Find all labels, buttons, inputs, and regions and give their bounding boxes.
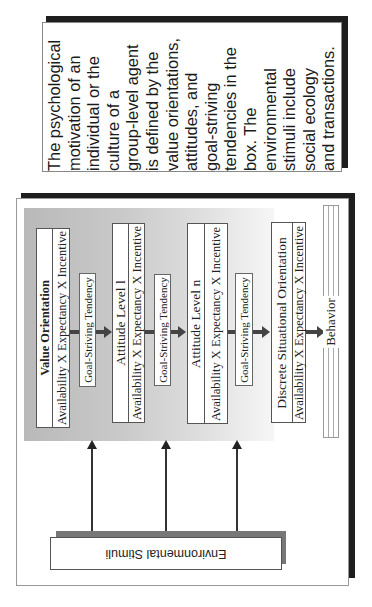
level-attitude-n: Attitude Level n Availability X Expectan…: [187, 223, 228, 424]
arrow-up: [91, 447, 93, 536]
behavior-label: Behavior: [323, 296, 339, 348]
note-line: group-level agent: [123, 23, 143, 171]
goal-striving-label: Goal-Striving Tendency: [157, 277, 169, 383]
note-line: box. The: [241, 23, 261, 171]
note-line: goal-striving: [202, 23, 222, 171]
goal-striving-label: Goal-Striving Tendency: [238, 277, 250, 383]
note-text: The psychological motivation of an indiv…: [45, 23, 339, 171]
note-line: is defined by the: [143, 23, 163, 171]
level-title: Value Orientation: [38, 280, 53, 376]
note-line: individual or the: [84, 23, 104, 171]
goal-striving-label: Goal-Striving Tendency: [82, 277, 94, 383]
level-formula: Availability X Expectancy X Incentive: [130, 226, 145, 420]
environmental-stimuli-label: Environmental Stimuli: [106, 547, 227, 561]
note-box: The psychological motivation of an indiv…: [42, 22, 342, 172]
note-line: The psychological: [45, 23, 65, 171]
note-line: stimuli include: [280, 23, 300, 171]
arrow-up: [165, 447, 167, 536]
note-line: and transactions.: [319, 23, 339, 171]
level-formula: Availability X Expectancy X Incentive: [292, 225, 307, 419]
level-title: Attitude Level n: [188, 279, 204, 367]
note-line: culture of a: [104, 23, 124, 171]
environmental-stimuli-box: Environmental Stimuli: [50, 537, 282, 570]
note-line: environmental: [261, 23, 281, 171]
note-line: social ecology: [300, 23, 320, 171]
level-discrete-situational: Discrete Situational Orientation Availab…: [271, 222, 306, 423]
note-line: attitudes, and: [182, 23, 202, 171]
level-attitude-1: Attitude Level l Availability X Expectan…: [112, 223, 145, 423]
level-title: Discrete Situational Orientation: [274, 237, 290, 409]
note-line: value orientations,: [163, 23, 183, 171]
level-formula: Availability X Expectancy X Incentive: [209, 226, 224, 420]
note-line: motivation of an: [65, 23, 85, 171]
level-formula: Availability X Expectancy X Incentive: [55, 231, 70, 425]
arrow-up: [236, 447, 238, 536]
goal-striving-box: Goal-Striving Tendency: [79, 273, 96, 387]
level-title: Attitude Level l: [113, 280, 129, 365]
arrow-right: [306, 330, 319, 334]
goal-striving-box: Goal-Striving Tendency: [154, 274, 171, 386]
behavior-box: Behavior: [323, 205, 339, 438]
level-value-orientation: Value Orientation Availability X Expecta…: [36, 228, 70, 428]
goal-striving-box: Goal-Striving Tendency: [235, 273, 253, 386]
note-line: tendencies in the: [221, 23, 241, 171]
